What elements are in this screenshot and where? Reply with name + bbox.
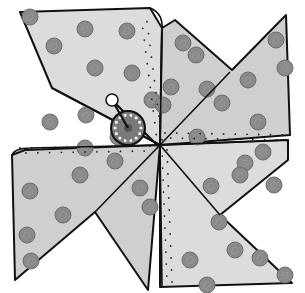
center-ring-dot xyxy=(130,139,133,142)
polka-dot xyxy=(119,23,135,39)
center-ring-dot xyxy=(130,114,133,117)
pin-head xyxy=(106,94,118,106)
polka-dot xyxy=(72,167,88,183)
center-ring-dot xyxy=(135,137,138,140)
polka-dot xyxy=(199,277,215,293)
polka-dot xyxy=(124,65,140,81)
polka-dot xyxy=(46,38,62,54)
center-ring-dot xyxy=(115,132,118,135)
polka-dot xyxy=(77,140,93,156)
polka-dot xyxy=(42,114,58,130)
polka-dot xyxy=(277,267,293,283)
center-ring-dot xyxy=(138,121,141,124)
polka-dot xyxy=(277,60,293,76)
polka-dot xyxy=(188,47,204,63)
center-ring-dot xyxy=(124,114,127,117)
polka-dot xyxy=(266,177,282,193)
polka-dot xyxy=(214,95,230,111)
polka-dot xyxy=(142,199,158,215)
center-ring-dot xyxy=(119,137,122,140)
center-ring-dot xyxy=(115,121,118,124)
polka-dot xyxy=(87,60,103,76)
polka-dot xyxy=(268,32,284,48)
polka-dot xyxy=(23,253,39,269)
polka-dot xyxy=(227,242,243,258)
center-ring-dot xyxy=(138,132,141,135)
polka-dot xyxy=(252,250,268,266)
polka-dot xyxy=(132,180,148,196)
polka-dot xyxy=(203,178,219,194)
polka-dot xyxy=(255,144,271,160)
center-ring-dot xyxy=(135,117,138,120)
polka-dot xyxy=(22,183,38,199)
blade-bottom-right xyxy=(160,140,292,287)
polka-dot xyxy=(107,153,123,169)
polka-dot xyxy=(232,167,248,183)
pinwheel-illustration xyxy=(0,0,305,293)
polka-dot xyxy=(22,9,38,25)
polka-dot xyxy=(250,114,266,130)
center-ring-dot xyxy=(114,127,117,130)
polka-dot xyxy=(211,214,227,230)
polka-dot xyxy=(77,21,93,37)
polka-dot xyxy=(163,79,179,95)
center-ring-dot xyxy=(140,127,143,130)
polka-dot xyxy=(240,72,256,88)
polka-dot xyxy=(19,227,35,243)
polka-dot xyxy=(182,252,198,268)
center-ring-dot xyxy=(124,139,127,142)
polka-dot xyxy=(55,207,71,223)
polka-dot xyxy=(175,35,191,51)
